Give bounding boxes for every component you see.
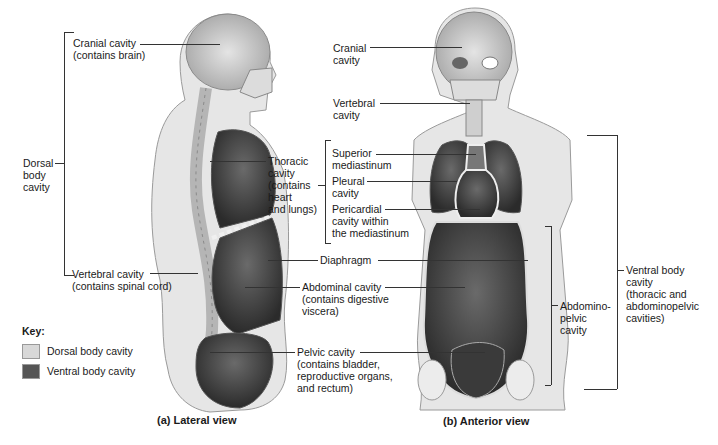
label-cranial-cavity-anterior: Cranial cavity <box>333 42 366 66</box>
thoracic-bracket <box>325 140 326 243</box>
label-diaphragm: Diaphragm <box>320 254 371 266</box>
label-thoracic-cavity: Thoracic cavity (contains heart and lung… <box>268 155 317 215</box>
key-swatch-dorsal <box>22 344 40 359</box>
caption-lateral-view: (a) Lateral view <box>157 414 236 426</box>
key-label-dorsal: Dorsal body cavity <box>47 345 133 357</box>
leader-line <box>210 352 295 353</box>
label-abdominal-cavity: Abdominal cavity (contains digestive vis… <box>302 281 389 317</box>
key-swatch-ventral <box>22 364 40 379</box>
leader-line <box>210 161 266 162</box>
label-cranial-cavity-lateral: Cranial cavity (contains brain) <box>73 37 145 61</box>
bracket-cap <box>325 243 331 244</box>
bracket-cap <box>545 226 551 227</box>
bracket-cap <box>325 140 331 141</box>
label-pleural-cavity: Pleural cavity <box>332 175 365 199</box>
leader-line <box>551 305 558 306</box>
dorsal-bracket <box>64 32 65 275</box>
bracket-cap <box>64 32 74 33</box>
key-label-ventral: Ventral body cavity <box>47 365 135 377</box>
leader-line <box>245 287 300 288</box>
bracket-cap <box>587 135 617 136</box>
label-vertebral-cavity-anterior: Vertebral cavity <box>333 97 375 121</box>
ventral-bracket <box>617 135 618 389</box>
key-title: Key: <box>22 325 45 337</box>
label-dorsal-body-cavity: Dorsal body cavity <box>23 157 53 193</box>
leader-line <box>367 181 457 182</box>
caption-anterior-view: (b) Anterior view <box>443 415 529 427</box>
leader-line <box>318 185 325 186</box>
label-pelvic-cavity: Pelvic cavity (contains bladder, reprodu… <box>297 346 393 394</box>
leader-line <box>360 352 485 353</box>
label-abdominopelvic-cavity: Abdomino- pelvic cavity <box>560 300 611 336</box>
leader-line <box>380 103 470 104</box>
leader-line <box>370 47 462 48</box>
leader-line <box>140 44 220 45</box>
leader-line <box>268 260 318 261</box>
leader-line <box>376 154 476 155</box>
label-vertebral-cavity-lateral: Vertebral cavity (contains spinal cord) <box>72 268 172 292</box>
leader-line <box>150 273 198 274</box>
label-superior-mediastinum: Superior mediastinum <box>332 147 392 171</box>
bracket-cap <box>584 389 617 390</box>
leader-line <box>617 270 624 271</box>
leader-line <box>385 287 465 288</box>
label-ventral-body-cavity: Ventral body cavity (thoracic and abdomi… <box>626 264 699 324</box>
leader-line <box>385 209 480 210</box>
leader-line <box>378 260 528 261</box>
bracket-cap <box>545 385 551 386</box>
leader-line <box>55 163 64 164</box>
